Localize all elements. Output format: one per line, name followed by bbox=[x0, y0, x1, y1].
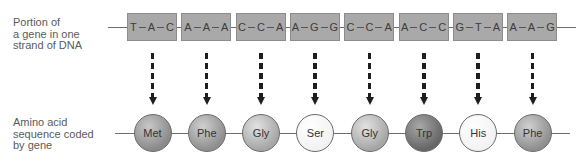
nucleotide-base: A bbox=[221, 21, 228, 33]
codon-box: CCA bbox=[236, 13, 286, 41]
base-bond bbox=[321, 27, 328, 28]
amino-acid-label: Phe bbox=[197, 127, 217, 139]
codon-box: ACC bbox=[399, 13, 449, 41]
nucleotide-base: A bbox=[292, 21, 299, 33]
amino-acid-trp: Trp bbox=[405, 114, 443, 152]
base-bond bbox=[357, 27, 364, 28]
amino-acid-label: Phe bbox=[523, 127, 543, 139]
base-bond bbox=[301, 27, 308, 28]
nucleotide-base: C bbox=[257, 21, 265, 33]
amino-acid-phe: Phe bbox=[188, 114, 226, 152]
nucleotide-base: G bbox=[310, 21, 319, 33]
dashed-arrow-down-icon bbox=[474, 53, 482, 105]
amino-acid-label: Trp bbox=[416, 127, 432, 139]
base-bond bbox=[212, 27, 219, 28]
nucleotide-base: C bbox=[419, 21, 427, 33]
amino-acid-met: Met bbox=[134, 114, 172, 152]
nucleotide-base: A bbox=[384, 21, 391, 33]
dashed-arrow-down-icon bbox=[529, 53, 537, 105]
nucleotide-base: A bbox=[509, 21, 516, 33]
amino-acid-label: Gly bbox=[361, 127, 378, 139]
amino-acid-his: His bbox=[459, 114, 497, 152]
amino-acid-gly: Gly bbox=[351, 114, 389, 152]
nucleotide-base: A bbox=[401, 21, 408, 33]
protein-chain-line bbox=[115, 133, 570, 134]
base-bond bbox=[519, 27, 526, 28]
nucleotide-base: C bbox=[438, 21, 446, 33]
base-bond bbox=[410, 27, 417, 28]
nucleotide-base: A bbox=[203, 21, 210, 33]
nucleotide-base: A bbox=[493, 21, 500, 33]
codon-box: AGG bbox=[290, 13, 340, 41]
nucleotide-base: G bbox=[546, 21, 555, 33]
amino-acid-label: His bbox=[470, 127, 486, 139]
base-bond bbox=[267, 27, 274, 28]
dashed-arrow-down-icon bbox=[257, 53, 265, 105]
nucleotide-base: A bbox=[276, 21, 283, 33]
base-bond bbox=[429, 27, 436, 28]
base-bond bbox=[194, 27, 201, 28]
nucleotide-base: C bbox=[366, 21, 374, 33]
codon-box: AAA bbox=[181, 13, 231, 41]
dashed-arrow-down-icon bbox=[149, 53, 157, 105]
nucleotide-base: G bbox=[330, 21, 339, 33]
amino-label-line-1: Amino acid bbox=[13, 117, 94, 129]
nucleotide-base: T bbox=[475, 21, 482, 33]
dna-label-line-3: strand of DNA bbox=[13, 40, 82, 52]
nucleotide-base: C bbox=[166, 21, 174, 33]
codon-box: CCA bbox=[344, 13, 394, 41]
dna-row-label: Portion of a gene in one strand of DNA bbox=[13, 17, 82, 52]
nucleotide-base: C bbox=[347, 21, 355, 33]
dna-strand-line bbox=[108, 27, 576, 28]
nucleotide-base: A bbox=[528, 21, 535, 33]
amino-acid-label: Met bbox=[143, 127, 161, 139]
base-bond bbox=[139, 27, 146, 28]
dna-label-line-1: Portion of bbox=[13, 17, 82, 29]
amino-acid-label: Ser bbox=[307, 127, 324, 139]
codon-box: AAG bbox=[507, 13, 557, 41]
nucleotide-base: G bbox=[455, 21, 464, 33]
nucleotide-base: T bbox=[130, 21, 137, 33]
base-bond bbox=[484, 27, 491, 28]
codon-box: TAC bbox=[127, 13, 177, 41]
base-bond bbox=[375, 27, 382, 28]
amino-acid-gly: Gly bbox=[242, 114, 280, 152]
amino-acid-label: Gly bbox=[253, 127, 270, 139]
base-bond bbox=[157, 27, 164, 28]
dashed-arrow-down-icon bbox=[203, 53, 211, 105]
amino-acid-ser: Ser bbox=[296, 114, 334, 152]
amino-row-label: Amino acid sequence coded by gene bbox=[13, 117, 94, 152]
base-bond bbox=[466, 27, 473, 28]
codon-box: GTA bbox=[453, 13, 503, 41]
nucleotide-base: A bbox=[148, 21, 155, 33]
dashed-arrow-down-icon bbox=[311, 53, 319, 105]
dashed-arrow-down-icon bbox=[366, 53, 374, 105]
nucleotide-base: C bbox=[238, 21, 246, 33]
dashed-arrow-down-icon bbox=[420, 53, 428, 105]
nucleotide-base: A bbox=[184, 21, 191, 33]
amino-label-line-3: by gene bbox=[13, 140, 94, 152]
base-bond bbox=[248, 27, 255, 28]
amino-acid-phe: Phe bbox=[514, 114, 552, 152]
base-bond bbox=[537, 27, 544, 28]
